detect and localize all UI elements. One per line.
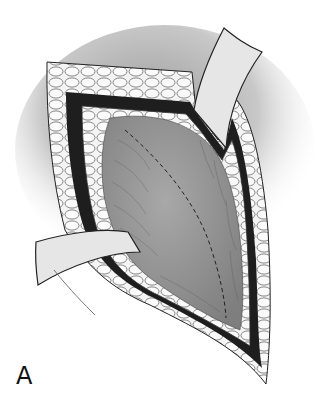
skin-contour-line: [54, 270, 95, 315]
panel-label: A: [16, 362, 32, 390]
surgical-illustration: [0, 0, 326, 408]
